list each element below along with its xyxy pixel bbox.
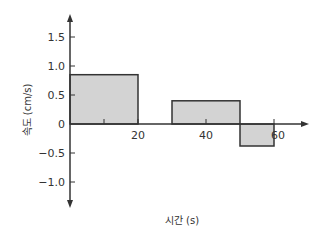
bar-0-20 [70,75,138,124]
velocity-time-chart: 20 40 60 1.5 1.0 0.5 0 −0.5 −1.0 속도 (cm/… [0,0,327,245]
y-tick-1.0: 1.0 [48,60,66,73]
x-axis-arrow-icon [301,121,309,127]
x-tick-40: 40 [199,129,213,142]
y-tick-1.5: 1.5 [48,31,66,44]
y-axis-label: 속도 (cm/s) [22,84,33,137]
y-tick-neg0.5: −0.5 [38,147,65,160]
x-tick-60: 60 [271,129,285,142]
y-axis-arrow-down-icon [67,200,73,208]
y-axis-arrow-up-icon [67,14,73,22]
x-axis-label: 시간 (s) [165,215,199,226]
y-tick-neg1.0: −1.0 [38,176,65,189]
x-tick-20: 20 [131,129,145,142]
y-tick-0: 0 [58,118,65,131]
bar-50-60 [240,124,274,146]
y-tick-0.5: 0.5 [48,89,66,102]
